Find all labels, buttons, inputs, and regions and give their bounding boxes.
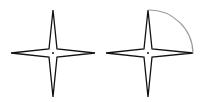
diagram-canvas <box>0 0 204 102</box>
center-dot <box>52 52 54 54</box>
star-right <box>106 10 193 97</box>
center-dot <box>147 52 149 54</box>
rotation-arc <box>148 10 193 53</box>
star-left <box>11 10 95 97</box>
